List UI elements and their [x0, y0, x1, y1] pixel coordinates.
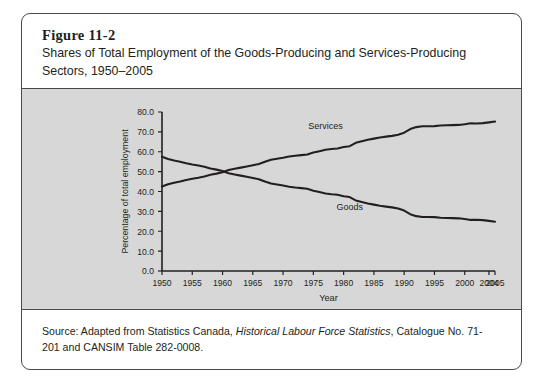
x-axis-tick-label: 2005	[485, 278, 504, 288]
y-axis-tick-label: 80.0	[137, 107, 154, 117]
x-axis-tick-label: 1980	[334, 278, 353, 288]
series-label-services: Services	[308, 121, 343, 131]
x-axis-tick-label: 1950	[152, 278, 171, 288]
x-axis-tick-label: 1985	[364, 278, 383, 288]
source-publication-title: Historical Labour Force Statistics	[236, 325, 391, 337]
x-axis-tick-label: 1995	[425, 278, 444, 288]
source-prefix: Source: Adapted from Statistics Canada,	[42, 325, 236, 337]
y-axis-tick-label: 70.0	[137, 127, 154, 137]
x-axis-title: Year	[319, 293, 338, 303]
chart-plot-panel: 0.010.020.030.040.050.060.070.080.019501…	[22, 88, 521, 310]
y-axis-tick-label: 30.0	[137, 207, 154, 217]
y-axis-tick-label: 50.0	[137, 167, 154, 177]
x-axis-tick-label: 1990	[395, 278, 414, 288]
x-axis-tick-label: 1975	[304, 278, 323, 288]
figure-number: Figure 11-2	[42, 26, 521, 44]
y-axis-title: Percentage of total employment	[120, 129, 130, 254]
employment-shares-line-chart: 0.010.020.030.040.050.060.070.080.019501…	[22, 89, 522, 311]
x-axis-tick-label: 1960	[213, 278, 232, 288]
figure-title: Shares of Total Employment of the Goods-…	[42, 45, 472, 81]
figure-source-note: Source: Adapted from Statistics Canada, …	[22, 310, 521, 356]
x-axis-tick-label: 1955	[183, 278, 202, 288]
series-line-goods	[162, 157, 495, 222]
y-axis-tick-label: 10.0	[137, 247, 154, 257]
x-axis-tick-label: 1970	[274, 278, 293, 288]
y-axis-tick-label: 60.0	[137, 147, 154, 157]
x-axis-tick-label: 1965	[243, 278, 262, 288]
figure-header: Figure 11-2 Shares of Total Employment o…	[22, 14, 521, 88]
y-axis-tick-label: 40.0	[137, 187, 154, 197]
y-axis-tick-label: 20.0	[137, 227, 154, 237]
y-axis-tick-label: 0.0	[142, 266, 154, 276]
series-line-services	[162, 122, 495, 187]
series-label-goods: Goods	[336, 202, 363, 212]
figure-card: Figure 11-2 Shares of Total Employment o…	[21, 13, 522, 370]
x-axis-tick-label: 2000	[455, 278, 474, 288]
